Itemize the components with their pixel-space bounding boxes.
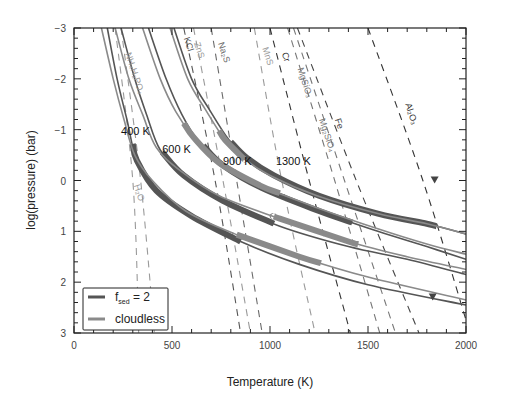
- profile-label: 400 K: [121, 125, 150, 137]
- x-tick-label: 0: [71, 340, 77, 351]
- y-axis-label: log(pressure) (bar): [24, 130, 38, 229]
- profile-label: 600 K: [162, 143, 191, 155]
- profile-label: 900 K: [223, 155, 252, 167]
- y-tick-label: 3: [60, 328, 66, 339]
- condensation-curves: [115, 28, 470, 333]
- condensate-label-mns: MnS: [260, 46, 275, 67]
- y-tick-label: −1: [55, 125, 67, 136]
- condensation-curve-fe: [297, 28, 419, 333]
- x-tick-label: 2000: [455, 340, 478, 351]
- condensate-label-al2o3: Al₂O₃: [403, 102, 419, 126]
- condensate-label-zns: ZnS: [192, 41, 207, 60]
- y-tick-label: −3: [55, 23, 67, 34]
- x-tick-label: 500: [164, 340, 181, 351]
- profile-400k-cloudless-cloud-region: [237, 235, 321, 264]
- markers: [429, 177, 439, 301]
- profile-1300k-cloudless: [170, 28, 466, 234]
- y-tick-label: 0: [60, 176, 66, 187]
- condensate-label-fe: Fe: [333, 117, 346, 130]
- x-tick-label: 1500: [357, 340, 380, 351]
- legend: fsed = 2 cloudless: [83, 288, 168, 330]
- y-tick-label: 2: [60, 277, 66, 288]
- triangle-marker: [431, 177, 439, 184]
- condensation-curve-al2o3: [368, 28, 470, 333]
- profile-label: 1300 K: [276, 155, 312, 167]
- condensate-label-na2s: Na₂S: [216, 41, 232, 64]
- condensate-label-cr: Cr: [280, 51, 292, 63]
- y-tick-label: −2: [55, 74, 67, 85]
- y-tick-label: 1: [60, 226, 66, 237]
- legend-label-cloudless: cloudless: [115, 312, 165, 326]
- chart: H₂ONH₄H₂PO₄KClZnSNa₂SMnSCrMgSiO₃Mg₂SiO₄F…: [0, 0, 506, 408]
- x-axis-label: Temperature (K): [227, 375, 314, 389]
- x-tick-label: 1000: [259, 340, 282, 351]
